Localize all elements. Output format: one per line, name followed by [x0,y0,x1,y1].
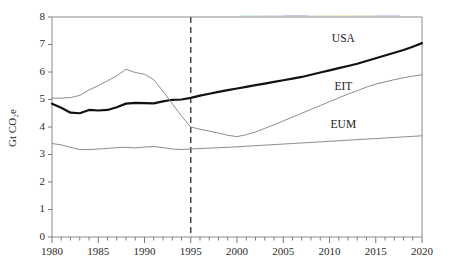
x-tick-label: 2015 [365,245,388,257]
x-tick-label: 2010 [319,245,342,257]
y-tick-label: 2 [40,175,46,187]
x-tick-label: 1990 [134,245,157,257]
y-tick-label: 1 [40,202,46,214]
data-series-group [52,43,422,149]
x-tick-label: 1985 [87,245,110,257]
y-tick-label: 8 [40,10,46,22]
y-axis-ticks: 012345678 [40,10,53,242]
y-tick-label: 0 [40,230,46,242]
x-axis-ticks: 198019851990199520002005201020152020 [41,237,434,257]
x-tick-label: 1980 [41,245,64,257]
y-axis-title: Gt CO₂e [6,109,18,147]
x-tick-label: 2005 [272,245,295,257]
y-tick-label: 7 [40,37,46,49]
series-line-eit [52,69,422,136]
series-label-usa: USA [332,32,356,44]
y-tick-label: 5 [40,92,46,104]
y-tick-label: 4 [40,120,46,132]
x-tick-label: 2000 [226,245,249,257]
y-tick-label: 6 [40,65,46,77]
series-label-eit: EIT [334,80,352,92]
series-label-eum: EUM [331,118,357,130]
chart-container: 012345678 198019851990199520002005201020… [0,0,454,269]
series-labels-group: USAEITEUM [331,32,357,131]
series-line-usa [52,43,422,113]
y-tick-label: 3 [40,147,46,159]
series-line-eum [52,136,422,150]
x-tick-label: 2020 [411,245,434,257]
chart-axes [52,17,422,237]
top-color-fringe [240,15,400,16]
line-chart: 012345678 198019851990199520002005201020… [0,0,454,269]
x-tick-label: 1995 [180,245,203,257]
